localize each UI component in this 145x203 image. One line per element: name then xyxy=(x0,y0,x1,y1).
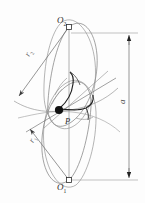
label-center-upper: O2 xyxy=(57,16,66,27)
center-marker-lower xyxy=(67,178,72,183)
radius-vector-r1 xyxy=(30,129,69,180)
label-center-lower: O1 xyxy=(57,183,66,194)
label-pitch-point: P xyxy=(65,117,70,126)
pitch-point-marker xyxy=(55,106,63,114)
figure-canvas: O2 O1 P r2 r1 a xyxy=(0,0,145,203)
label-center-distance: a xyxy=(118,100,127,105)
center-marker-upper xyxy=(67,25,72,30)
line-of-action xyxy=(26,71,116,132)
